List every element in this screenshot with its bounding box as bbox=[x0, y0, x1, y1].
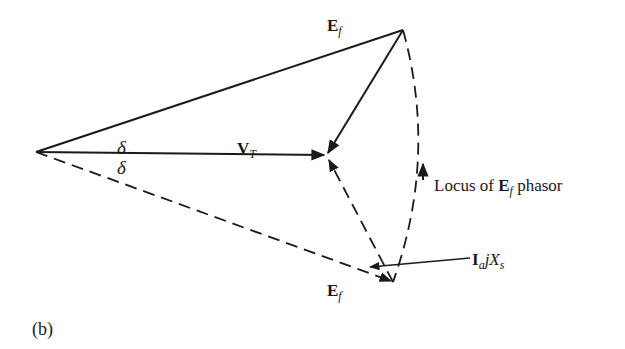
iajxs-pointer bbox=[370, 258, 470, 267]
locus-arc bbox=[393, 30, 418, 282]
ef-bottom-phasor bbox=[36, 152, 391, 281]
iajxs-phasor-top bbox=[328, 30, 403, 153]
delta-upper-label: δ bbox=[117, 138, 126, 157]
delta-lower-label: δ bbox=[117, 158, 126, 177]
ef-top-label: Ef bbox=[327, 17, 342, 34]
figure-caption: (b) bbox=[32, 320, 53, 338]
locus-label: Locus of Ef phasor bbox=[434, 177, 562, 194]
vt-label: VT bbox=[237, 140, 256, 157]
ef-top-phasor bbox=[36, 30, 403, 152]
iajxs-label: IajXs bbox=[472, 251, 504, 268]
phasor-diagram bbox=[0, 0, 625, 349]
iajxs-phasor-bottom bbox=[329, 160, 393, 282]
vt-phasor bbox=[36, 152, 324, 155]
ef-bottom-label: Ef bbox=[327, 282, 342, 299]
